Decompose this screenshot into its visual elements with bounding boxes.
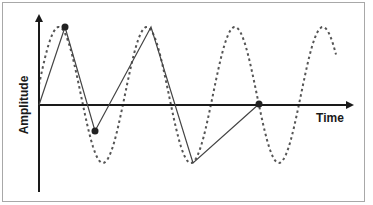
y-axis-label: Amplitude (17, 75, 31, 134)
sample-dot (256, 101, 263, 108)
sampled-reconstruction-line (39, 27, 259, 163)
x-axis-label: Time (316, 111, 344, 125)
sample-dot (62, 24, 69, 31)
sample-dot (92, 128, 99, 135)
original-signal-wave (39, 27, 336, 163)
aliasing-diagram: Time Amplitude (0, 0, 373, 205)
